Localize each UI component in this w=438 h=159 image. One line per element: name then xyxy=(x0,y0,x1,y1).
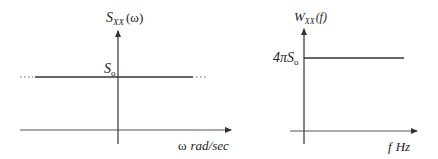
right-level-label: 4πSo xyxy=(273,50,299,67)
left-panel-two-sided-psd: SXX(ω) So ωrad/sec xyxy=(20,10,231,153)
left-x-axis-label: ωrad/sec xyxy=(178,138,229,153)
right-y-axis-label: WXX(f) xyxy=(294,9,327,26)
left-level-label: So xyxy=(104,61,116,78)
psd-diagram: SXX(ω) So ωrad/sec WXX(f) 4πSo fHz xyxy=(0,0,438,159)
right-panel-one-sided-psd: WXX(f) 4πSo fHz xyxy=(273,9,417,154)
left-y-axis-label: SXX(ω) xyxy=(106,10,143,27)
right-x-axis-label: fHz xyxy=(388,139,410,154)
